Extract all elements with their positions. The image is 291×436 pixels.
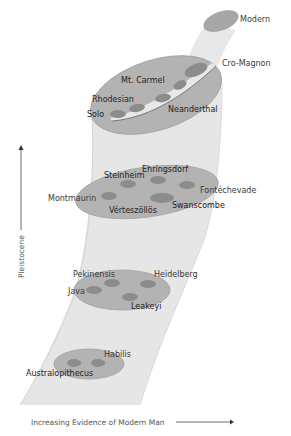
label-modern: Modern — [240, 15, 270, 24]
label-leakeyi: Leakeyi — [131, 302, 161, 311]
oval-habilis — [91, 359, 105, 367]
oval-australopithecus — [67, 359, 81, 367]
label-habilis: Habilis — [104, 350, 131, 359]
y-axis-label: Pleistocene — [17, 235, 26, 278]
oval-fontechevade — [179, 181, 195, 189]
label-rhodesian: Rhodesian — [92, 95, 134, 104]
label-verteszollos: Vérteszöllös — [109, 205, 157, 215]
label-heidelberg: Heidelberg — [154, 270, 198, 279]
label-cro-magnon: Cro-Magnon — [222, 59, 271, 68]
label-steinheim: Steinheim — [104, 171, 145, 180]
label-java: Java — [67, 287, 85, 296]
oval-heidelberg — [140, 280, 156, 288]
oval-ehringsdorf — [150, 176, 166, 184]
x-axis-label: Increasing Evidence of Modern Man — [31, 418, 165, 427]
label-mt-carmel: Mt. Carmel — [121, 76, 165, 85]
label-fontechevade: Fontéchevade — [200, 185, 256, 195]
label-neanderthal: Neanderthal — [168, 105, 218, 114]
label-australopithecus: Australopithecus — [26, 369, 93, 378]
oval-solo — [110, 110, 126, 118]
oval-leakeyi — [122, 293, 138, 301]
evolution-diagram: Modern Cro-Magnon Mt. Carmel Rhodesian N… — [0, 0, 291, 436]
x-axis-arrowhead-icon — [230, 420, 234, 425]
oval-steinheim — [120, 180, 136, 188]
label-montmaurin: Montmaurin — [48, 194, 96, 203]
oval-pekinensis — [104, 279, 120, 287]
label-swanscombe: Swanscombe — [172, 201, 225, 210]
oval-montmaurin — [101, 192, 117, 200]
label-ehringsdorf: Ehringsdorf — [142, 165, 188, 174]
oval-java — [86, 286, 102, 294]
label-solo: Solo — [87, 110, 104, 119]
oval-swanscombe — [150, 193, 174, 203]
label-pekinensis: Pekinensis — [73, 270, 115, 279]
y-axis-arrowhead-icon — [19, 145, 24, 150]
